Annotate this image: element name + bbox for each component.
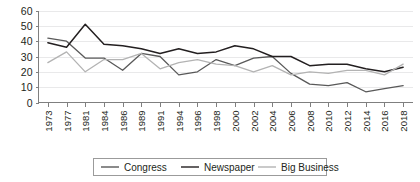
y-tick-label: 40 (21, 35, 33, 47)
x-tick-label: 1989 (136, 111, 147, 132)
x-axis-tick-marks (49, 103, 404, 107)
y-axis-tick-labels: 0102030405060 (21, 5, 33, 109)
y-tick-label: 30 (21, 51, 33, 63)
legend-label-congress: Congress (124, 162, 167, 173)
x-tick-label: 1984 (99, 111, 110, 132)
y-tick-label: 10 (21, 81, 33, 93)
x-tick-label: 2004 (267, 111, 278, 132)
x-tick-label: 1981 (80, 111, 91, 132)
y-tick-label: 50 (21, 20, 33, 32)
x-tick-label: 1977 (62, 111, 73, 132)
x-tick-label: 2008 (305, 111, 316, 132)
x-tick-label: 1991 (155, 111, 166, 132)
x-tick-label: 1994 (174, 111, 185, 132)
x-tick-label: 1996 (192, 111, 203, 132)
x-tick-label: 2016 (379, 111, 390, 132)
series-lines (48, 24, 403, 91)
x-tick-label: 2012 (342, 111, 353, 132)
x-axis-tick-labels: 1973197719811984198619891991199419961998… (43, 111, 409, 132)
y-tick-label: 20 (21, 66, 33, 78)
x-tick-label: 1986 (118, 111, 129, 132)
series-line-big-business (48, 52, 403, 75)
x-tick-label: 1998 (211, 111, 222, 132)
line-chart: 0102030405060 19731977198119841986198919… (0, 0, 420, 182)
x-tick-label: 2002 (249, 111, 260, 132)
x-tick-label: 2010 (323, 111, 334, 132)
x-tick-label: 2006 (286, 111, 297, 132)
chart-legend: CongressNewspaperBig Business (94, 159, 339, 176)
legend-label-newspaper: Newspaper (204, 162, 255, 173)
x-tick-label: 2000 (230, 111, 241, 132)
chart-container: 0102030405060 19731977198119841986198919… (0, 0, 420, 182)
y-tick-label: 60 (21, 5, 33, 17)
legend-label-big-business: Big Business (281, 162, 339, 173)
y-tick-label: 0 (27, 97, 33, 109)
x-tick-label: 2014 (361, 111, 372, 132)
x-tick-label: 2018 (398, 111, 409, 132)
x-tick-label: 1973 (43, 111, 54, 132)
